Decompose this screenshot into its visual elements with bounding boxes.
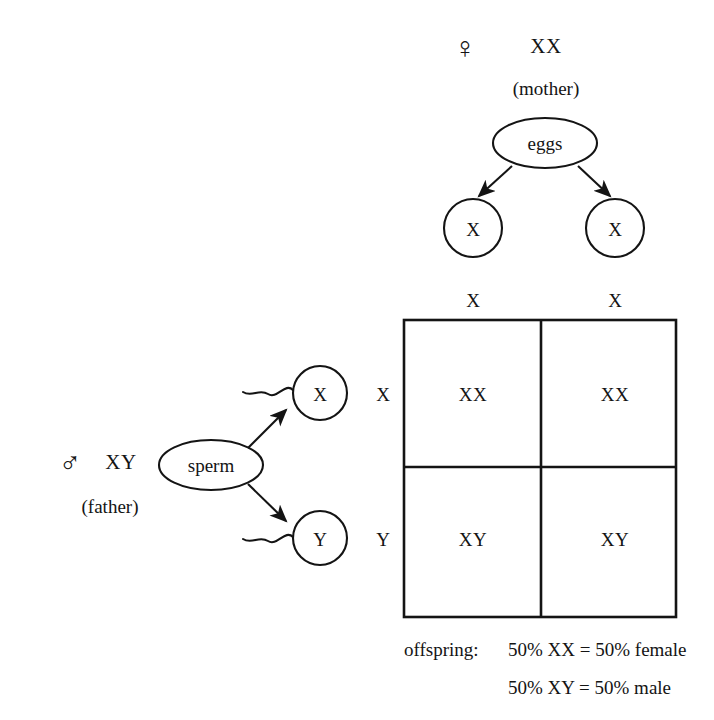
sperm-tail-y-shape bbox=[243, 535, 293, 542]
mother-genotype-label: XX bbox=[530, 36, 561, 57]
mother-role-label: (mother) bbox=[513, 79, 579, 98]
punnett-cell-r1c1: XX bbox=[459, 385, 487, 404]
sperm-to-x-gamete-arrow bbox=[248, 410, 286, 448]
punnett-column-header-1: X bbox=[466, 291, 480, 310]
sperm-tail-x-shape bbox=[243, 388, 293, 395]
punnett-row-header-1: X bbox=[376, 385, 390, 404]
egg-cell-right-allele: X bbox=[608, 220, 622, 239]
venus-female-symbol-icon: ♀ bbox=[454, 33, 477, 63]
offspring-title-label: offspring: bbox=[404, 640, 479, 659]
egg-cell-left-allele: X bbox=[466, 220, 480, 239]
punnett-row-header-2: Y bbox=[376, 530, 390, 549]
punnett-cell-r2c1: XY bbox=[459, 530, 487, 549]
punnett-column-header-2: X bbox=[608, 291, 622, 310]
offspring-result-line-1: 50% XX = 50% female bbox=[508, 640, 687, 659]
offspring-result-line-2: 50% XY = 50% male bbox=[508, 678, 671, 697]
father-genotype-label: XY bbox=[105, 452, 136, 473]
diagram-vector-layer bbox=[0, 0, 714, 720]
eggs-to-left-gamete-arrow bbox=[479, 166, 512, 196]
sperm-bubble-label: sperm bbox=[188, 456, 234, 475]
sperm-cell-y-allele: Y bbox=[313, 530, 327, 549]
mars-male-symbol-icon: ♂ bbox=[59, 448, 82, 478]
eggs-to-right-gamete-arrow bbox=[578, 166, 610, 196]
punnett-cell-r2c2: XY bbox=[601, 530, 629, 549]
sperm-to-y-gamete-arrow bbox=[248, 484, 286, 521]
sperm-cell-x-allele: X bbox=[313, 385, 327, 404]
eggs-bubble-label: eggs bbox=[528, 134, 563, 153]
father-role-label: (father) bbox=[82, 497, 139, 516]
figure-canvas: ♀ XX (mother) eggs X X X X ♂ XY (father)… bbox=[0, 0, 714, 720]
punnett-cell-r1c2: XX bbox=[601, 385, 629, 404]
